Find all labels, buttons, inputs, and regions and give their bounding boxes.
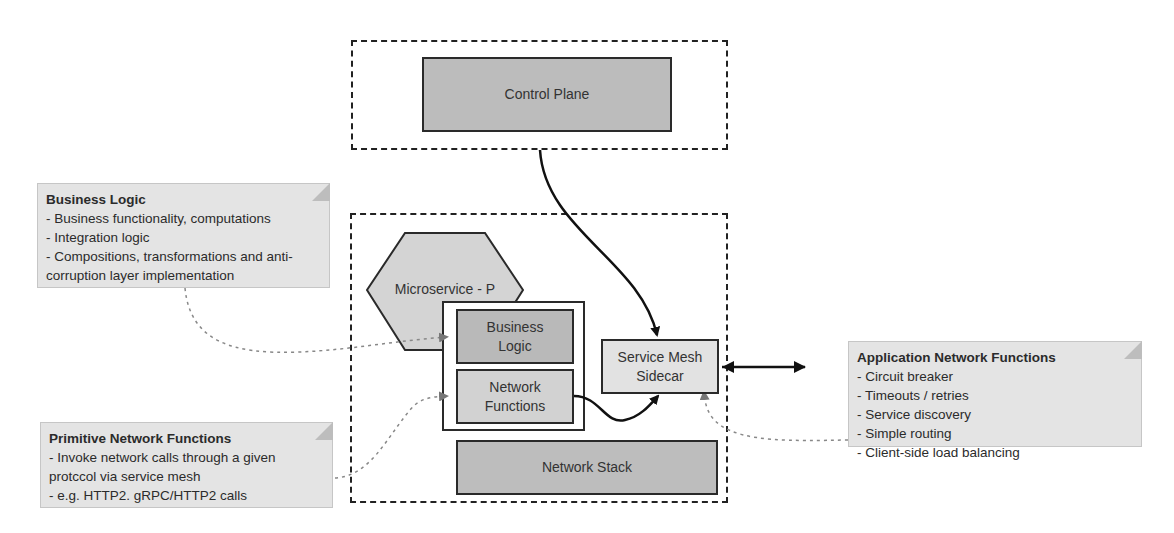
- note-line: - Compositions, transformations and anti…: [46, 247, 321, 285]
- note-line: - Circuit breaker: [857, 367, 1133, 386]
- business-logic-box: Business Logic: [456, 309, 574, 364]
- note-application-network-functions: Application Network Functions - Circuit …: [848, 341, 1142, 447]
- note-business-logic: Business Logic - Business functionality,…: [37, 183, 330, 288]
- business-logic-label: Business Logic: [475, 318, 555, 356]
- note-title: Primitive Network Functions: [49, 429, 324, 448]
- note-title: Application Network Functions: [857, 348, 1133, 367]
- note-line: - Client-side load balancing: [857, 443, 1133, 462]
- note-line: - Integration logic: [46, 228, 321, 247]
- note-line: - Timeouts / retries: [857, 386, 1133, 405]
- microservice-label: Microservice - P: [375, 281, 515, 297]
- note-line: - Invoke network calls through a given p…: [49, 448, 324, 486]
- sidecar-label: Service Mesh Sidecar: [610, 348, 710, 386]
- network-stack-box: Network Stack: [456, 440, 718, 495]
- service-mesh-sidecar-box: Service Mesh Sidecar: [601, 339, 719, 394]
- note-primitive-network-functions: Primitive Network Functions - Invoke net…: [40, 422, 333, 508]
- network-functions-label: Network Functions: [475, 378, 555, 416]
- note-line: - Simple routing: [857, 424, 1133, 443]
- note-title: Business Logic: [46, 190, 321, 209]
- note-line: - Service discovery: [857, 405, 1133, 424]
- network-stack-label: Network Stack: [542, 458, 632, 477]
- note-line: - Business functionality, computations: [46, 209, 321, 228]
- network-functions-box: Network Functions: [456, 369, 574, 424]
- note-line: - e.g. HTTP2. gRPC/HTTP2 calls: [49, 486, 324, 505]
